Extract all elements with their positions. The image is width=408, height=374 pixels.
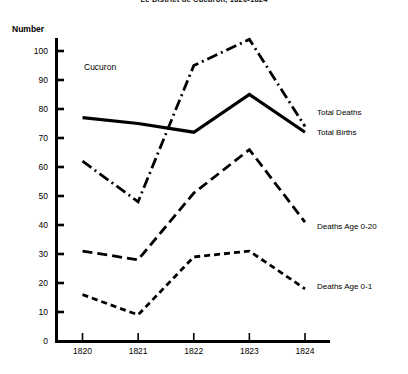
- y-tick-label: 0: [22, 337, 48, 345]
- y-tick-label: 10: [22, 308, 48, 316]
- series-paths: [83, 39, 306, 315]
- y-tick-label: 80: [22, 105, 48, 113]
- chart-figure: Le District de Cucuron, 1820-1824 Number…: [0, 0, 408, 374]
- series-label-deaths-age-0-20: Deaths Age 0-20: [317, 222, 377, 231]
- y-tick-label: 100: [22, 47, 48, 55]
- series-line-total-births: [83, 95, 306, 133]
- series-line-deaths-age-0-20: [83, 150, 306, 260]
- axes: [55, 38, 330, 342]
- x-tick-label: 1821: [118, 347, 158, 356]
- x-axis-ticks: [83, 333, 306, 341]
- plot-annotation-cucuron: Cucuron: [84, 62, 116, 72]
- y-tick-label: 20: [22, 279, 48, 287]
- x-tick-label: 1823: [229, 347, 269, 356]
- y-tick-label: 90: [22, 76, 48, 84]
- y-tick-label: 70: [22, 134, 48, 142]
- x-tick-label: 1820: [63, 347, 103, 356]
- x-tick-label: 1822: [174, 347, 214, 356]
- series-label-total-births: Total Births: [317, 128, 357, 137]
- x-tick-label: 1824: [285, 347, 325, 356]
- series-line-deaths-age-0-1: [83, 251, 306, 315]
- y-tick-label: 40: [22, 221, 48, 229]
- series-label-total-deaths: Total Deaths: [317, 108, 361, 117]
- y-tick-label: 60: [22, 163, 48, 171]
- y-tick-label: 30: [22, 250, 48, 258]
- plot-area: [0, 0, 408, 374]
- series-label-deaths-age-0-1: Deaths Age 0-1: [317, 282, 372, 291]
- y-tick-label: 50: [22, 192, 48, 200]
